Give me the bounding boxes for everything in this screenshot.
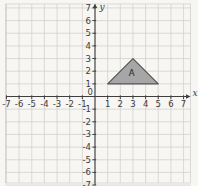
y-tick-label: -3 — [83, 129, 91, 139]
x-tick-label: 5 — [156, 99, 161, 109]
y-tick-label: 3 — [86, 54, 91, 64]
background — [0, 0, 198, 186]
graph-svg: -7-6-5-4-3-2-11234567-7-6-5-4-3-2-112345… — [0, 0, 198, 186]
origin-label: 0 — [88, 87, 93, 97]
x-tick-label: -5 — [28, 99, 36, 109]
y-tick-label: -1 — [83, 104, 91, 114]
y-tick-label: 6 — [86, 16, 91, 26]
x-tick-label: 6 — [168, 99, 173, 109]
x-tick-label: 4 — [143, 99, 148, 109]
y-tick-label: -4 — [83, 142, 91, 152]
shape-label-A: A — [129, 68, 135, 78]
x-tick-label: -7 — [2, 99, 10, 109]
x-tick-label: 1 — [105, 99, 110, 109]
x-tick-label: 7 — [181, 99, 186, 109]
y-tick-label: 4 — [86, 41, 91, 51]
x-tick-label: -6 — [15, 99, 23, 109]
y-tick-label: -5 — [83, 155, 91, 165]
y-tick-label: 2 — [86, 66, 91, 76]
y-tick-label: -2 — [83, 117, 91, 127]
x-tick-label: -4 — [40, 99, 48, 109]
y-tick-label: -7 — [83, 180, 91, 186]
x-tick-label: -2 — [65, 99, 73, 109]
x-axis-name: x — [193, 88, 198, 98]
y-tick-label: 5 — [86, 28, 91, 38]
plot-background — [0, 0, 198, 186]
y-tick-label: -6 — [83, 167, 91, 177]
y-axis-name: y — [99, 2, 106, 12]
x-tick-label: -3 — [53, 99, 61, 109]
coordinate-plane: -7-6-5-4-3-2-11234567-7-6-5-4-3-2-112345… — [0, 0, 198, 186]
x-tick-label: 3 — [130, 99, 135, 109]
x-tick-label: 2 — [118, 99, 123, 109]
y-tick-label: 7 — [86, 3, 91, 13]
